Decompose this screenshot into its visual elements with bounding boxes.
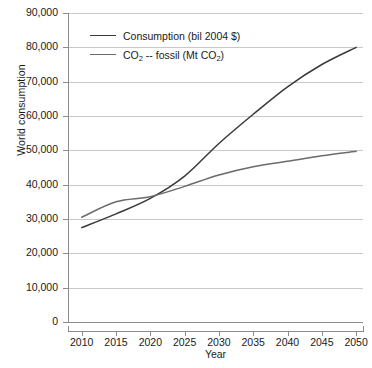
chart-container: World consumption 010,00020,00030,00040,…	[0, 0, 372, 368]
x-axis-tick-label: 2050	[332, 336, 372, 348]
legend-label: CO2 -- fossil (Mt CO2)	[123, 49, 224, 61]
legend-line-swatch	[90, 35, 116, 36]
y-axis-tick-label: 10,000	[2, 281, 58, 293]
x-axis-title: Year	[68, 348, 363, 360]
series-line-co2	[82, 151, 356, 217]
y-axis-tick-label: 40,000	[2, 178, 58, 190]
x-axis-end-cap	[363, 326, 364, 332]
y-axis-tick-label: 70,000	[2, 75, 58, 87]
y-axis-tick-label: 50,000	[2, 143, 58, 155]
x-axis-end-cap	[68, 326, 69, 332]
legend-item: Consumption (bil 2004 $)	[90, 26, 240, 45]
legend-line-swatch	[90, 54, 116, 55]
legend-label: Consumption (bil 2004 $)	[123, 30, 240, 42]
y-axis-tick-label: 20,000	[2, 246, 58, 258]
y-axis-tick-label: 0	[2, 315, 58, 327]
x-axis-line	[68, 331, 363, 332]
y-axis-tick-label: 90,000	[2, 6, 58, 18]
y-axis-tick-label: 30,000	[2, 212, 58, 224]
chart-legend: Consumption (bil 2004 $)CO2 -- fossil (M…	[90, 26, 240, 64]
y-axis-tick-label: 60,000	[2, 109, 58, 121]
legend-item: CO2 -- fossil (Mt CO2)	[90, 45, 240, 64]
y-axis-tick-label: 80,000	[2, 40, 58, 52]
